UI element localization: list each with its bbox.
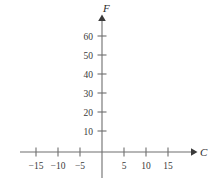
x-tick-label: −15: [29, 161, 44, 171]
x-tick-label: 10: [141, 161, 151, 171]
x-tick-label: 15: [163, 161, 173, 171]
y-tick-label: 50: [84, 51, 94, 61]
y-tick-label: 10: [84, 127, 94, 137]
x-tick-label: −10: [51, 161, 66, 171]
y-tick-label: 40: [84, 70, 94, 80]
coordinate-plane-figure: −15 −10 −5 5 10 15 10 20 30 40 50 60 F C: [0, 0, 216, 180]
x-axis-label: C: [200, 146, 208, 158]
y-axis-arrow-icon: [98, 15, 106, 22]
x-tick-label: −5: [75, 161, 85, 171]
y-axis-label: F: [102, 2, 110, 14]
plot-svg: −15 −10 −5 5 10 15 10 20 30 40 50 60 F C: [0, 0, 216, 180]
x-tick-label: 5: [122, 161, 127, 171]
x-axis-arrow-icon: [191, 148, 198, 156]
y-tick-label: 30: [84, 89, 94, 99]
y-tick-label: 20: [84, 108, 94, 118]
y-tick-label: 60: [84, 32, 94, 42]
